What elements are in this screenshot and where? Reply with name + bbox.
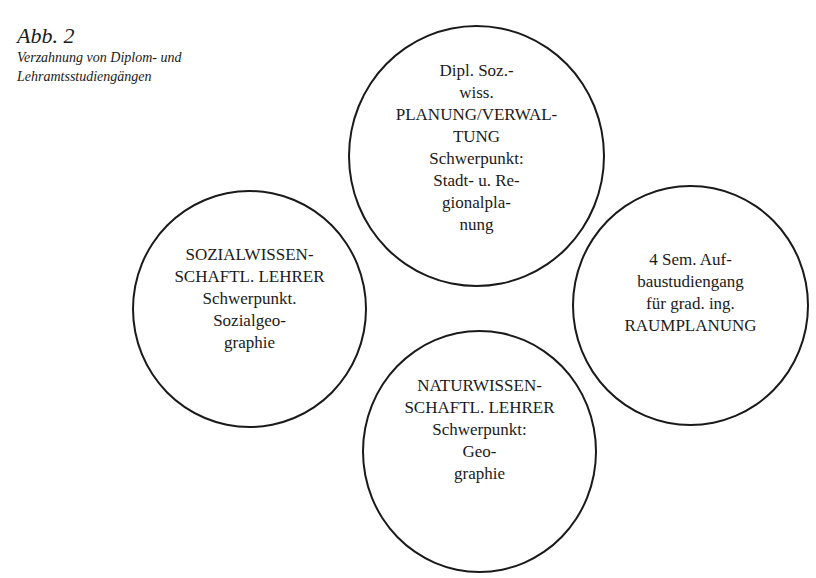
circle-line: TUNG — [453, 126, 500, 148]
circle-line: SCHAFTL. LEHRER — [404, 397, 554, 419]
circle-line: baustudiengang — [637, 271, 744, 293]
circle-diplom-planung-verwaltung: Dipl. Soz.- wiss. PLANUNG/VERWAL- TUNG S… — [348, 25, 605, 287]
figure-caption: Abb. 2 Verzahnung von Diplom- und Lehram… — [17, 24, 182, 86]
circle-line: nung — [460, 214, 494, 236]
circle-line: RAUMPLANUNG — [624, 315, 756, 337]
circle-line: graphie — [454, 463, 505, 485]
circle-text: Dipl. Soz.- wiss. PLANUNG/VERWAL- TUNG S… — [396, 60, 558, 236]
figure-title-line-2: Lehramtsstudiengängen — [17, 68, 182, 86]
circle-line: Geo- — [463, 441, 497, 463]
circle-line: Dipl. Soz.- — [439, 60, 513, 82]
circle-line: für grad. ing. — [646, 293, 735, 315]
circle-line: Schwerpunkt: — [429, 148, 523, 170]
circle-naturwissenschaftl-lehrer: NATURWISSEN- SCHAFTL. LEHRER Schwerpunkt… — [362, 330, 597, 573]
circle-sozialwissenschaftl-lehrer: SOZIALWISSEN- SCHAFTL. LEHRER Schwerpunk… — [132, 190, 367, 428]
circle-line: gionalpla- — [442, 192, 511, 214]
figure-label: Abb. 2 — [17, 24, 182, 48]
circle-line: wiss. — [459, 82, 493, 104]
circle-line: SOZIALWISSEN- — [185, 244, 313, 266]
circle-aufbaustudiengang-raumplanung: 4 Sem. Auf- baustudiengang für grad. ing… — [572, 185, 809, 426]
circle-line: 4 Sem. Auf- — [649, 249, 732, 271]
circle-line: SCHAFTL. LEHRER — [174, 266, 324, 288]
circle-text: NATURWISSEN- SCHAFTL. LEHRER Schwerpunkt… — [404, 375, 554, 485]
circle-line: PLANUNG/VERWAL- — [396, 104, 558, 126]
circle-line: Schwerpunkt. — [203, 288, 297, 310]
circle-line: graphie — [224, 332, 275, 354]
circle-line: Stadt- u. Re- — [433, 170, 519, 192]
circle-text: SOZIALWISSEN- SCHAFTL. LEHRER Schwerpunk… — [174, 244, 324, 354]
circle-line: NATURWISSEN- — [417, 375, 542, 397]
circle-line: Sozialgeo- — [213, 310, 286, 332]
circle-text: 4 Sem. Auf- baustudiengang für grad. ing… — [624, 249, 756, 337]
figure-title-line-1: Verzahnung von Diplom- und — [17, 49, 182, 67]
circle-line: Schwerpunkt: — [432, 419, 526, 441]
